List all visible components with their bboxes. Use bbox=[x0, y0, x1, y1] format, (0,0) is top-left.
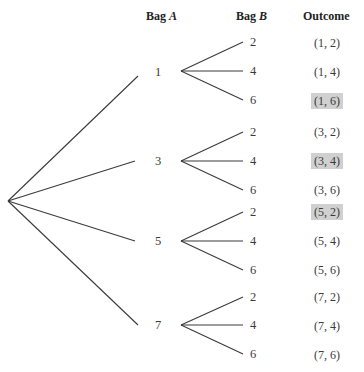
outcome-cell: (7, 2) bbox=[311, 289, 343, 305]
bag-a-node-1: 1 bbox=[155, 66, 161, 79]
outcome-cell-highlighted: (3, 4) bbox=[311, 153, 343, 169]
tree-branches bbox=[8, 42, 243, 354]
outcome-cell: (5, 6) bbox=[311, 262, 343, 278]
outcome-cell: (3, 2) bbox=[311, 124, 343, 140]
outcome-cell: (7, 4) bbox=[311, 318, 343, 334]
bag-b-node: 6 bbox=[250, 94, 256, 107]
bag-b-node: 4 bbox=[250, 235, 256, 248]
bag-a-node-7: 7 bbox=[155, 319, 161, 332]
outcome-cell-highlighted: (1, 6) bbox=[311, 93, 343, 109]
bag-b-node: 2 bbox=[250, 36, 256, 49]
tree-diagram bbox=[0, 0, 364, 372]
outcome-cell-highlighted: (5, 2) bbox=[311, 204, 343, 220]
outcome-cell: (1, 4) bbox=[311, 64, 343, 80]
outcome-cell: (1, 2) bbox=[311, 35, 343, 51]
bag-b-node: 4 bbox=[250, 155, 256, 168]
outcome-cell: (3, 6) bbox=[311, 182, 343, 198]
bag-a-node-5: 5 bbox=[155, 235, 161, 248]
bag-b-node: 4 bbox=[250, 319, 256, 332]
bag-a-node-3: 3 bbox=[155, 155, 161, 168]
bag-b-node: 6 bbox=[250, 184, 256, 197]
bag-b-node: 4 bbox=[250, 65, 256, 78]
bag-b-node: 2 bbox=[250, 291, 256, 304]
bag-b-node: 6 bbox=[250, 348, 256, 361]
outcome-cell: (5, 4) bbox=[311, 233, 343, 249]
bag-b-node: 2 bbox=[250, 206, 256, 219]
bag-b-node: 6 bbox=[250, 264, 256, 277]
outcome-cell: (7, 6) bbox=[311, 347, 343, 363]
bag-b-node: 2 bbox=[250, 126, 256, 139]
